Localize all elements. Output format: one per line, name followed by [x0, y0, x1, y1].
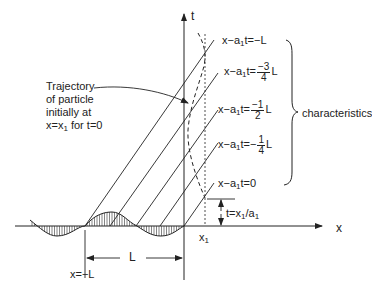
annotation-pointer-arrow: [94, 87, 188, 103]
fraction: −34: [257, 62, 270, 83]
time-mid: /a: [245, 207, 254, 219]
characteristics-group-label: characteristics: [302, 107, 372, 119]
characteristics-brace: [284, 40, 298, 185]
time-sub2: 1: [255, 212, 259, 221]
characteristic-line-minus-1-2-L: [136, 110, 218, 226]
char-mid: t=: [245, 34, 254, 46]
char-prefix: x−a: [218, 103, 236, 115]
characteristic-label-minus-3-4-L: x−a1t=−34L: [224, 62, 278, 83]
x1-label: x1: [199, 231, 209, 247]
fraction: 14: [257, 135, 265, 156]
dimension-start-label: x=−L: [70, 268, 94, 280]
time-marker-label: t=x1/a1: [226, 207, 259, 223]
char-prefix: x−a: [224, 65, 242, 77]
fraction-denominator: 4: [257, 146, 265, 156]
annotation-line-3: initially at: [46, 106, 102, 119]
char-suffix: L: [266, 138, 272, 150]
t-axis-label: t: [191, 10, 194, 22]
char-value: −L: [254, 34, 267, 46]
char-mid: t=−: [241, 138, 257, 150]
characteristic-label-zero: x−a1t=0: [218, 177, 256, 193]
characteristic-line-minus-3-4-L: [110, 73, 218, 226]
char-prefix: x−a: [218, 177, 236, 189]
annotation-line-4: x=x1 for t=0: [46, 119, 102, 135]
initial-profile-hatching: [32, 205, 182, 240]
fraction-denominator: 4: [257, 73, 270, 83]
annotation-line-2: of particle: [46, 93, 102, 106]
characteristic-label-minus-1-4-L: x−a1t=−14L: [218, 135, 272, 156]
fraction-denominator: 2: [251, 111, 264, 121]
fraction: −12: [251, 100, 264, 121]
x-axis-label: x: [336, 222, 342, 234]
characteristic-label-minus-1-2-L: x−a1t=−12L: [218, 100, 272, 121]
x1-label-sub: 1: [205, 236, 209, 245]
char-suffix: L: [271, 65, 277, 77]
annotation-eq-suffix: for t=0: [68, 119, 103, 131]
char-mid: t=0: [241, 177, 257, 189]
characteristic-line-zero: [184, 183, 214, 226]
char-mid: t=: [247, 65, 256, 77]
char-prefix: x−a: [222, 34, 240, 46]
char-mid: t=: [241, 103, 250, 115]
trajectory-annotation: Trajectory of particle initially at x=x1…: [46, 80, 102, 135]
char-suffix: L: [265, 103, 271, 115]
characteristic-line-minus-1-4-L: [160, 143, 218, 226]
char-prefix: x−a: [218, 138, 236, 150]
characteristic-label-minus-L: x−a1t=−L: [222, 34, 267, 50]
characteristic-line-minus-L: [85, 40, 214, 226]
time-prefix: t=x: [226, 207, 241, 219]
dimension-span-label: L: [129, 251, 136, 263]
annotation-line-1: Trajectory: [46, 80, 102, 93]
annotation-eq-prefix: x=x: [46, 119, 63, 131]
